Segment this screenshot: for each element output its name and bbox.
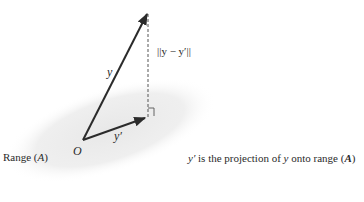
projection-diagram	[0, 0, 364, 202]
error-norm-label: ||y − y′||	[157, 46, 191, 57]
y-vector-label: y	[107, 66, 112, 78]
y-prime-vector-label: y′	[114, 130, 122, 142]
origin-label: O	[73, 145, 82, 157]
range-label-close: )	[44, 151, 48, 163]
caption-A: A	[344, 152, 351, 164]
range-label: Range (A)	[3, 152, 48, 163]
caption-text-1: is the projection of	[195, 152, 283, 164]
caption-text-2: onto range (	[288, 152, 344, 164]
caption-close: )	[352, 152, 356, 164]
range-label-text: Range (	[3, 151, 38, 163]
caption: y′ is the projection of y onto range (A)	[188, 153, 355, 164]
